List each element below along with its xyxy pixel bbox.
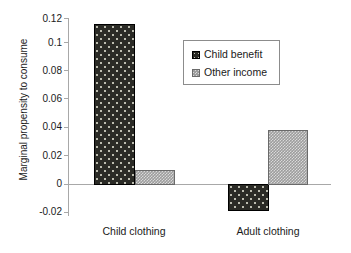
y-tick-label-0p02: 0.02 xyxy=(20,151,62,161)
y-tick-mark-0p12 xyxy=(64,18,68,19)
y-axis-tick-labels: 0.12 0.1 0.08 0.06 0.04 0.02 0 -0.02 xyxy=(20,0,62,253)
y-tick-label-0p08: 0.08 xyxy=(20,66,62,76)
y-tick-mark-0p04 xyxy=(64,127,68,128)
y-tick-mark-0p06 xyxy=(64,98,68,99)
y-tick-label-0p10: 0.1 xyxy=(20,38,62,48)
bar-other-income-child-clothing xyxy=(135,170,175,185)
x-axis-label-adult-clothing: Adult clothing xyxy=(208,225,328,237)
y-tick-label-0: 0 xyxy=(20,179,62,189)
legend-swatch-dark-icon xyxy=(192,51,200,59)
y-tick-label-0p06: 0.06 xyxy=(20,94,62,104)
x-axis-label-child-clothing: Child clothing xyxy=(74,225,194,237)
legend-swatch-gray-icon xyxy=(192,69,200,77)
y-tick-mark-0p10 xyxy=(64,42,68,43)
y-tick-mark-0p02 xyxy=(64,155,68,156)
legend-item-other-income: Other income xyxy=(192,64,279,81)
bar-child-benefit-adult-clothing xyxy=(228,184,269,211)
legend-label-child-benefit: Child benefit xyxy=(204,49,262,60)
y-axis-line xyxy=(68,18,69,216)
bar-other-income-adult-clothing xyxy=(268,130,308,185)
y-tick-label-0p04: 0.04 xyxy=(20,122,62,132)
y-tick-mark-0p08 xyxy=(64,70,68,71)
bar-chart: Marginal propensity to consume 0.12 0.1 … xyxy=(0,0,351,253)
legend-label-other-income: Other income xyxy=(204,67,267,78)
chart-legend: Child benefit Other income xyxy=(183,40,280,85)
y-tick-mark-neg0p02 xyxy=(64,212,68,213)
y-tick-label-0p12: 0.12 xyxy=(20,14,62,24)
y-tick-label-neg0p02: -0.02 xyxy=(20,207,62,217)
legend-item-child-benefit: Child benefit xyxy=(192,46,279,63)
bar-child-benefit-child-clothing xyxy=(94,24,135,185)
